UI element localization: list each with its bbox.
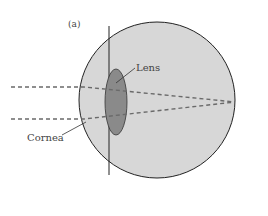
eye-diagram: (a) Lens Cornea	[0, 0, 268, 216]
lens	[105, 69, 127, 135]
panel-label: (a)	[68, 19, 80, 29]
cornea-leader-line	[62, 122, 86, 135]
cornea-label: Cornea	[27, 132, 64, 143]
lens-label: Lens	[136, 62, 160, 73]
eyeball	[79, 22, 235, 178]
